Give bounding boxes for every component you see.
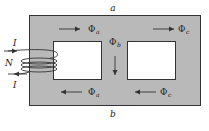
svg-text:b: b [117,41,121,48]
svg-text:a: a [96,91,100,98]
node-label-a: a [110,3,115,13]
core-window-left [54,42,102,80]
current-label-in: I [12,38,17,48]
magnetic-circuit-diagram: a b I N I Φ a Φ c Φ b Φ a Φ c [0,0,209,131]
svg-text:Φ: Φ [88,24,95,34]
svg-text:Φ: Φ [88,87,95,97]
svg-text:a: a [96,28,100,35]
svg-text:Φ: Φ [160,87,167,97]
turns-label: N [4,58,14,68]
node-label-b: b [110,109,116,119]
svg-text:Φ: Φ [178,24,185,34]
current-label-out: I [12,80,17,90]
core-window-right [128,42,176,80]
svg-text:Φ: Φ [109,37,116,47]
